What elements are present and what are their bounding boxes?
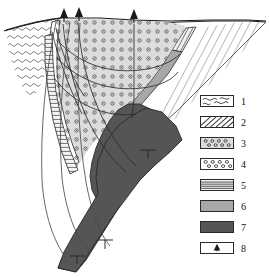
legend-item-6[interactable]: 6 [200,199,266,213]
dip-mark-lower [98,240,113,249]
legend-number-2: 2 [241,117,246,128]
legend-item-7[interactable]: 7 [200,220,266,234]
circles-gray-swatch [200,137,234,149]
legend-item-4[interactable]: 4 [200,157,266,171]
legend-number-4: 4 [241,159,246,170]
legend-number-7: 7 [241,222,246,233]
legend-number-3: 3 [241,138,246,149]
legend-item-5[interactable]: 5 [200,178,266,192]
legend-item-3[interactable]: 3 [200,136,266,150]
volcano-icon [200,242,234,254]
legend-number-8: 8 [241,243,246,254]
legend: 1 2 [200,94,266,262]
diagonal-hatch-swatch [200,116,234,128]
legend-number-1: 1 [241,96,246,107]
horizontal-lines-swatch [200,179,234,191]
circles-white-swatch [200,158,234,170]
dark-gray-swatch [200,221,234,233]
wavy-lines-swatch [200,95,234,107]
vent-symbol-middle [75,7,83,21]
legend-item-2[interactable]: 2 [200,115,266,129]
legend-item-8[interactable]: 8 [200,241,266,255]
geologic-cross-section-figure: 1 2 [0,0,269,277]
legend-item-1[interactable]: 1 [200,94,266,108]
legend-number-6: 6 [241,201,246,212]
legend-number-5: 5 [241,180,246,191]
light-gray-swatch [200,200,234,212]
